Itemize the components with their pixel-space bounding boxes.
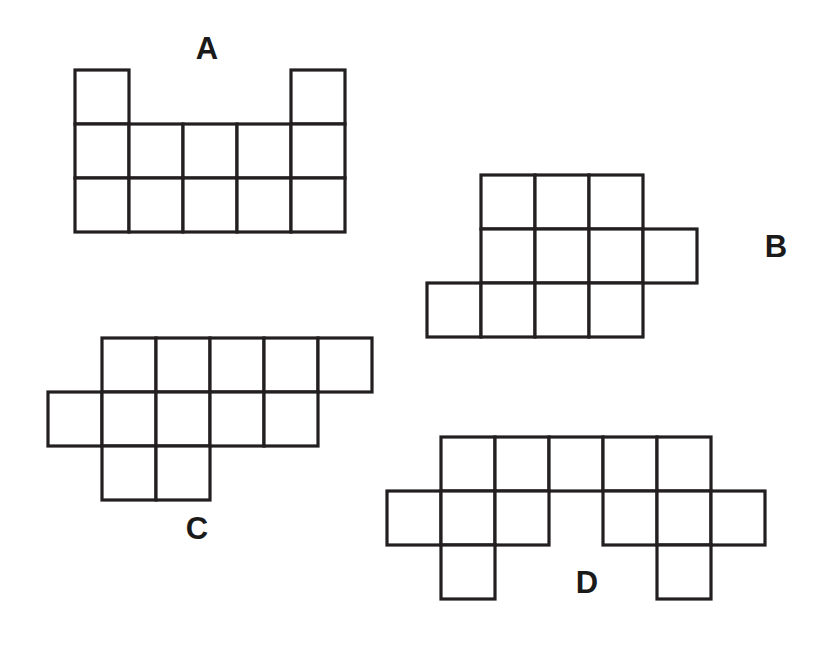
net-square — [210, 392, 264, 446]
net-square — [102, 338, 156, 392]
net-square — [318, 338, 372, 392]
figure-canvas: ABCD — [0, 0, 815, 645]
net-square — [75, 178, 129, 232]
net-square — [427, 283, 481, 337]
net-square — [481, 229, 535, 283]
net-figure-a: A — [75, 31, 345, 232]
net-square — [441, 437, 495, 491]
net-square — [264, 338, 318, 392]
net-square — [129, 124, 183, 178]
net-square — [210, 338, 264, 392]
net-square — [75, 70, 129, 124]
net-square — [589, 175, 643, 229]
net-square — [75, 124, 129, 178]
net-square — [603, 491, 657, 545]
figure-label-b: B — [765, 229, 787, 264]
net-square — [441, 491, 495, 545]
net-square — [237, 178, 291, 232]
net-square — [156, 392, 210, 446]
net-square — [291, 70, 345, 124]
net-square — [657, 491, 711, 545]
net-square — [549, 437, 603, 491]
net-figure-c: C — [48, 338, 372, 546]
net-square — [589, 229, 643, 283]
net-figure-b: B — [427, 175, 787, 337]
figure-label-a: A — [196, 31, 218, 66]
net-square — [535, 229, 589, 283]
net-diagram-svg: ABCD — [0, 0, 815, 645]
figure-label-d: D — [576, 565, 598, 600]
net-square — [237, 124, 291, 178]
net-square — [264, 392, 318, 446]
net-square — [129, 178, 183, 232]
net-square — [183, 178, 237, 232]
net-square — [183, 124, 237, 178]
net-square — [711, 491, 765, 545]
net-square — [481, 283, 535, 337]
net-square — [657, 545, 711, 599]
net-square — [603, 437, 657, 491]
net-square — [535, 175, 589, 229]
net-square — [102, 392, 156, 446]
net-square — [481, 175, 535, 229]
net-square — [441, 545, 495, 599]
net-square — [387, 491, 441, 545]
net-square — [643, 229, 697, 283]
net-square — [495, 437, 549, 491]
net-square — [291, 124, 345, 178]
net-square — [535, 283, 589, 337]
net-square — [102, 446, 156, 500]
figure-label-c: C — [186, 511, 208, 546]
net-square — [589, 283, 643, 337]
net-square — [495, 491, 549, 545]
net-square — [291, 178, 345, 232]
net-square — [48, 392, 102, 446]
net-square — [657, 437, 711, 491]
net-square — [156, 446, 210, 500]
net-square — [156, 338, 210, 392]
net-figure-d: D — [387, 437, 765, 600]
